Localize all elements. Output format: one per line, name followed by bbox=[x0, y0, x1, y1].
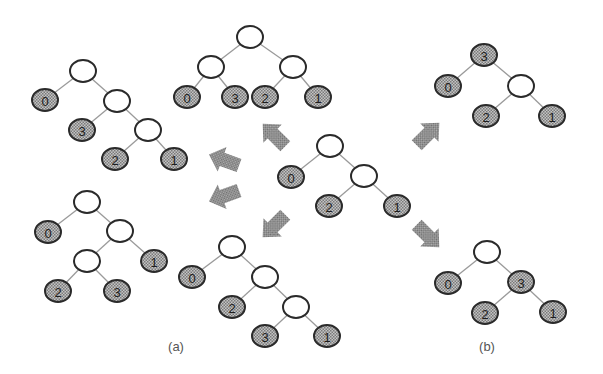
internal-node-shape bbox=[104, 90, 130, 112]
internal-node bbox=[219, 236, 245, 258]
leaf-label: 2 bbox=[482, 110, 489, 125]
internal-node-shape bbox=[237, 26, 263, 48]
leaf-node: 0 bbox=[435, 272, 461, 294]
leaf-label: 2 bbox=[54, 285, 61, 300]
arrow-icon-to-bottom-left bbox=[205, 178, 244, 213]
internal-node bbox=[74, 191, 100, 213]
leaf-node: 1 bbox=[141, 250, 167, 272]
internal-node bbox=[135, 119, 161, 141]
leaf-node: 0 bbox=[35, 221, 61, 243]
leaf-label: 2 bbox=[111, 153, 118, 168]
internal-node bbox=[70, 60, 96, 82]
leaf-label: 3 bbox=[78, 124, 85, 139]
caption-b: (b) bbox=[479, 339, 495, 354]
internal-node-shape bbox=[252, 266, 278, 288]
leaf-label: 2 bbox=[228, 301, 235, 316]
leaf-label: 2 bbox=[481, 307, 488, 322]
leaf-node: 3 bbox=[508, 271, 534, 293]
leaf-node: 0 bbox=[278, 166, 304, 188]
leaf-node: 2 bbox=[102, 148, 128, 170]
internal-node-shape bbox=[280, 56, 306, 78]
tree-b-top-right: 3021 bbox=[435, 44, 565, 127]
leaf-node: 2 bbox=[219, 296, 245, 318]
leaf-node: 1 bbox=[540, 301, 566, 323]
internal-node-shape bbox=[70, 60, 96, 82]
arrow-icon-to-top-left bbox=[205, 142, 244, 177]
arrow-icon-to-top-center bbox=[253, 114, 294, 155]
leaf-node: 1 bbox=[314, 325, 340, 347]
leaf-label: 2 bbox=[261, 91, 268, 106]
arrow-icon-to-bottom-right bbox=[407, 215, 448, 256]
leaf-node: 3 bbox=[252, 325, 278, 347]
leaf-label: 3 bbox=[480, 49, 487, 64]
leaf-node: 0 bbox=[435, 75, 461, 97]
internal-node-shape bbox=[107, 220, 133, 242]
leaf-label: 0 bbox=[287, 171, 294, 186]
internal-node-shape bbox=[508, 75, 534, 97]
leaf-node: 1 bbox=[384, 195, 410, 217]
internal-node-shape bbox=[219, 236, 245, 258]
tree-a-bottom-left: 0123 bbox=[35, 191, 167, 302]
leaf-label: 0 bbox=[44, 226, 51, 241]
tree-a-top-center: 0321 bbox=[174, 26, 331, 108]
arrow-icon-to-top-right bbox=[407, 113, 448, 154]
leaf-node: 3 bbox=[222, 86, 248, 108]
leaf-label: 1 bbox=[170, 153, 177, 168]
arrow-icon-to-bottom-center bbox=[253, 205, 294, 246]
leaf-label: 0 bbox=[188, 271, 195, 286]
leaf-node: 2 bbox=[473, 105, 499, 127]
internal-node-shape bbox=[74, 191, 100, 213]
leaf-node: 3 bbox=[471, 44, 497, 66]
tree-b-bottom-right: 0321 bbox=[435, 241, 566, 324]
trees-layer: 021032103210123023130210321 bbox=[32, 26, 566, 347]
internal-node-shape bbox=[283, 296, 309, 318]
leaf-node: 2 bbox=[472, 302, 498, 324]
internal-node bbox=[74, 250, 100, 272]
leaf-label: 3 bbox=[261, 330, 268, 345]
leaf-node: 0 bbox=[174, 86, 200, 108]
leaf-node: 2 bbox=[252, 86, 278, 108]
tree-rearrangement-figure: 021032103210123023130210321 (a)(b) bbox=[0, 0, 603, 374]
leaf-label: 0 bbox=[444, 80, 451, 95]
leaf-label: 1 bbox=[549, 306, 556, 321]
internal-node bbox=[474, 241, 500, 263]
leaf-node: 2 bbox=[45, 280, 71, 302]
internal-node bbox=[237, 26, 263, 48]
internal-node bbox=[508, 75, 534, 97]
leaf-label: 0 bbox=[41, 94, 48, 109]
internal-node bbox=[351, 165, 377, 187]
leaf-label: 1 bbox=[393, 200, 400, 215]
internal-node-shape bbox=[474, 241, 500, 263]
internal-node bbox=[107, 220, 133, 242]
leaf-label: 0 bbox=[183, 91, 190, 106]
tree-a-top-left: 0321 bbox=[32, 60, 187, 170]
internal-node bbox=[283, 296, 309, 318]
tree-center: 021 bbox=[278, 135, 410, 217]
leaf-label: 0 bbox=[444, 277, 451, 292]
leaf-label: 1 bbox=[150, 255, 157, 270]
leaf-node: 2 bbox=[316, 195, 342, 217]
internal-node bbox=[280, 56, 306, 78]
internal-node-shape bbox=[317, 135, 343, 157]
leaf-label: 1 bbox=[323, 330, 330, 345]
internal-node-shape bbox=[74, 250, 100, 272]
internal-node-shape bbox=[351, 165, 377, 187]
internal-node bbox=[104, 90, 130, 112]
leaf-node: 0 bbox=[32, 89, 58, 111]
leaf-node: 1 bbox=[161, 148, 187, 170]
tree-a-bottom-center: 0231 bbox=[179, 236, 340, 347]
internal-node-shape bbox=[135, 119, 161, 141]
leaf-label: 3 bbox=[113, 285, 120, 300]
leaf-label: 1 bbox=[314, 91, 321, 106]
leaf-node: 1 bbox=[305, 86, 331, 108]
leaf-node: 0 bbox=[179, 266, 205, 288]
leaf-node: 1 bbox=[539, 105, 565, 127]
leaf-label: 1 bbox=[548, 110, 555, 125]
caption-a: (a) bbox=[168, 339, 184, 354]
internal-node bbox=[252, 266, 278, 288]
leaf-label: 3 bbox=[517, 276, 524, 291]
leaf-node: 3 bbox=[104, 280, 130, 302]
leaf-node: 3 bbox=[69, 119, 95, 141]
figure-svg: 021032103210123023130210321 (a)(b) bbox=[0, 0, 603, 374]
internal-node bbox=[317, 135, 343, 157]
